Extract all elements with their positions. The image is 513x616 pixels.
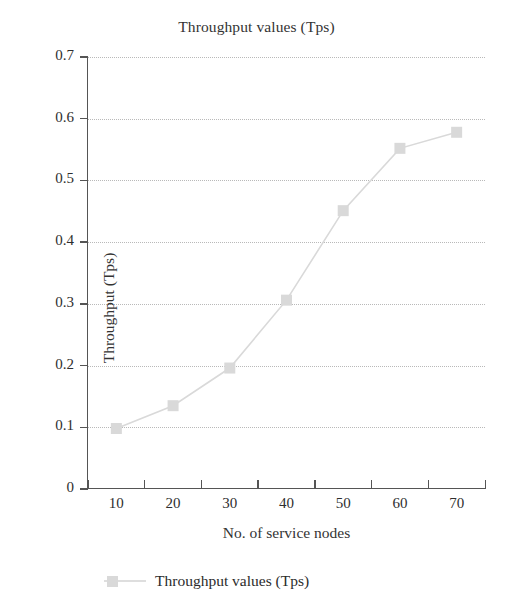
series-path [116, 132, 456, 428]
y-tick-0.3 [80, 303, 88, 304]
x-tick-label-40: 40 [262, 495, 312, 512]
y-tick-label-0.5: 0.5 [30, 170, 74, 187]
x-tick-label-30: 30 [205, 495, 255, 512]
y-tick-label-0.2: 0.2 [30, 356, 74, 373]
x-tick-label-20: 20 [148, 495, 198, 512]
data-point-40 [281, 295, 292, 306]
y-tick-label-0.1: 0.1 [30, 417, 74, 434]
chart-legend: Throughput values (Tps) [104, 572, 309, 590]
y-tick-label-0.4: 0.4 [30, 232, 74, 249]
y-axis-title: Throughput (Tps) [100, 178, 118, 438]
legend-label: Throughput values (Tps) [155, 572, 309, 590]
data-point-50 [338, 205, 349, 216]
y-tick-label-0: 0 [30, 479, 74, 496]
y-tick-0.6 [80, 118, 88, 119]
y-tick-0.1 [80, 427, 88, 428]
y-tick-label-0.3: 0.3 [30, 294, 74, 311]
x-tick-label-60: 60 [375, 495, 425, 512]
plot-area: Throughput (Tps) [88, 57, 485, 489]
x-tick-label-50: 50 [318, 495, 368, 512]
x-tick-label-70: 70 [432, 495, 482, 512]
y-tick-label-0.6: 0.6 [30, 109, 74, 126]
y-tick-0.5 [80, 180, 88, 181]
x-axis-title: No. of service nodes [88, 524, 485, 542]
y-tick-0.7 [80, 56, 88, 57]
data-point-30 [224, 363, 235, 374]
chart-title: Throughput values (Tps) [0, 18, 513, 36]
y-tick-label-0.7: 0.7 [30, 47, 74, 64]
data-point-60 [394, 143, 405, 154]
legend-marker-icon [104, 574, 146, 588]
y-tick-0.2 [80, 365, 88, 366]
x-tick-label-10: 10 [91, 495, 141, 512]
chart-figure: Throughput values (Tps) 0.70.60.50.40.30… [0, 0, 513, 616]
data-point-70 [451, 127, 462, 138]
y-tick-0.4 [80, 241, 88, 242]
series-line-throughput [88, 57, 485, 489]
data-point-20 [168, 400, 179, 411]
